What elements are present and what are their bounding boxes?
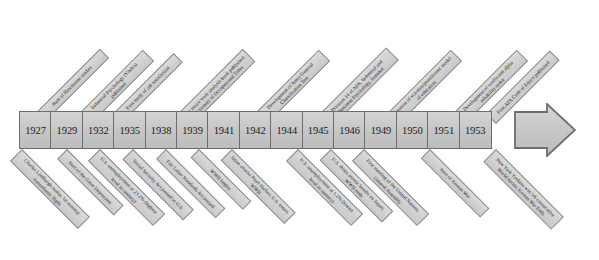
year-label: 1941 xyxy=(214,125,235,136)
year-label: 1939 xyxy=(182,125,203,136)
year-cell-1950[interactable]: 1950 xyxy=(396,111,429,149)
year-cell-1945[interactable]: 1945 xyxy=(302,111,335,149)
year-cell-1935[interactable]: 1935 xyxy=(113,111,146,149)
year-cell-1927[interactable]: 1927 xyxy=(19,111,52,149)
year-cell-1944[interactable]: 1944 xyxy=(270,111,303,149)
year-label: 1951 xyxy=(433,125,454,136)
year-label: 1927 xyxy=(25,125,46,136)
year-label: 1953 xyxy=(465,125,486,136)
year-label: 1945 xyxy=(308,125,329,136)
year-cell-1951[interactable]: 1951 xyxy=(427,111,460,149)
event-tag-label: New York Yankees win 5th consecutive Wor… xyxy=(488,154,559,225)
year-label: 1935 xyxy=(119,125,140,136)
timeline-arrow-icon xyxy=(514,103,576,157)
year-cell-1938[interactable]: 1938 xyxy=(145,111,178,149)
timeline-figure: Start of Hawthorne studies Industrial Ps… xyxy=(0,0,599,260)
year-label: 1938 xyxy=(151,125,172,136)
year-label: 1946 xyxy=(339,125,360,136)
year-band: 1927 1929 1932 1935 1938 1939 1941 1942 … xyxy=(19,111,490,149)
year-label: 1949 xyxy=(371,125,392,136)
year-cell-1932[interactable]: 1932 xyxy=(82,111,115,149)
year-cell-1939[interactable]: 1939 xyxy=(176,111,209,149)
year-cell-1941[interactable]: 1941 xyxy=(207,111,240,149)
year-label: 1944 xyxy=(276,125,297,136)
event-tag-bottom-1953: New York Yankees win 5th consecutive Wor… xyxy=(483,149,564,230)
event-tag-label: WWII begins xyxy=(209,167,233,191)
year-cell-1946[interactable]: 1946 xyxy=(333,111,366,149)
year-cell-1942[interactable]: 1942 xyxy=(239,111,272,149)
year-label: 1950 xyxy=(402,125,423,136)
event-tag-label: Start of Hawthorne studies xyxy=(50,64,93,107)
year-label: 1929 xyxy=(57,125,78,136)
year-cell-1953[interactable]: 1953 xyxy=(459,111,492,149)
event-tag-bottom-1950: Start of Korean War xyxy=(421,149,490,218)
year-cell-1949[interactable]: 1949 xyxy=(364,111,397,149)
year-label: 1932 xyxy=(88,125,109,136)
event-tag-label: Start of Korean War xyxy=(438,167,471,200)
year-cell-1929[interactable]: 1929 xyxy=(50,111,83,149)
year-label: 1942 xyxy=(245,125,266,136)
